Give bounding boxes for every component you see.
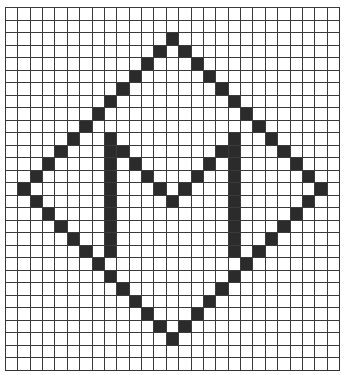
grid-cell xyxy=(178,170,190,183)
filled-cell xyxy=(178,45,190,58)
filled-cell xyxy=(166,332,178,345)
grid-cell xyxy=(166,182,178,195)
grid-cell xyxy=(215,307,227,320)
grid-cell xyxy=(5,257,17,270)
grid-cell xyxy=(252,232,264,245)
grid-cell xyxy=(302,57,314,70)
grid-cell xyxy=(42,195,54,208)
grid-cell xyxy=(265,282,277,295)
grid-cell xyxy=(104,32,116,45)
grid-cell xyxy=(166,270,178,283)
grid-cell xyxy=(314,320,326,333)
grid-cell xyxy=(191,232,203,245)
filled-cell xyxy=(129,70,141,83)
grid-cell xyxy=(203,257,215,270)
grid-cell xyxy=(240,170,252,183)
grid-cell xyxy=(327,257,339,270)
grid-cell xyxy=(252,32,264,45)
grid-cell xyxy=(5,145,17,158)
grid-cell xyxy=(215,257,227,270)
grid-cell xyxy=(116,182,128,195)
filled-cell xyxy=(92,107,104,120)
grid-cell xyxy=(327,307,339,320)
grid-cell xyxy=(314,307,326,320)
grid-cell xyxy=(92,32,104,45)
grid-cell xyxy=(240,95,252,108)
grid-cell xyxy=(215,107,227,120)
grid-cell xyxy=(314,145,326,158)
grid-cell xyxy=(30,257,42,270)
grid-cell xyxy=(240,120,252,133)
grid-cell xyxy=(79,70,91,83)
filled-cell xyxy=(141,307,153,320)
grid-cell xyxy=(54,332,66,345)
grid-cell xyxy=(30,295,42,308)
grid-cell xyxy=(302,245,314,258)
grid-cell xyxy=(17,107,29,120)
filled-cell xyxy=(215,282,227,295)
grid-cell xyxy=(277,182,289,195)
grid-cell xyxy=(277,195,289,208)
grid-cell xyxy=(153,157,165,170)
grid-cell xyxy=(215,357,227,370)
grid-cell xyxy=(191,145,203,158)
grid-cell xyxy=(30,120,42,133)
filled-cell xyxy=(166,195,178,208)
grid-cell xyxy=(67,282,79,295)
grid-cell xyxy=(178,345,190,358)
grid-cell xyxy=(67,270,79,283)
grid-cell xyxy=(54,282,66,295)
grid-cell xyxy=(92,357,104,370)
grid-cell xyxy=(79,107,91,120)
grid-cell xyxy=(79,170,91,183)
grid-cell xyxy=(129,332,141,345)
grid-cell xyxy=(92,282,104,295)
grid-cell xyxy=(178,32,190,45)
grid-cell xyxy=(5,207,17,220)
grid-cell xyxy=(54,195,66,208)
grid-cell xyxy=(5,332,17,345)
grid-cell xyxy=(290,57,302,70)
grid-cell xyxy=(104,295,116,308)
grid-cell xyxy=(5,45,17,58)
grid-cell xyxy=(79,332,91,345)
grid-cell xyxy=(265,220,277,233)
grid-cell xyxy=(5,157,17,170)
grid-cell xyxy=(178,107,190,120)
grid-cell xyxy=(166,157,178,170)
grid-cell xyxy=(314,157,326,170)
grid-cell xyxy=(42,320,54,333)
filled-cell xyxy=(104,207,116,220)
grid-cell xyxy=(228,20,240,33)
grid-cell xyxy=(54,245,66,258)
grid-cell xyxy=(178,207,190,220)
grid-cell xyxy=(54,207,66,220)
grid-cell xyxy=(5,245,17,258)
grid-cell xyxy=(42,70,54,83)
grid-cell xyxy=(92,295,104,308)
grid-cell xyxy=(92,82,104,95)
grid-cell xyxy=(265,170,277,183)
grid-cell xyxy=(240,357,252,370)
grid-cell xyxy=(5,120,17,133)
grid-cell xyxy=(191,32,203,45)
grid-cell xyxy=(240,195,252,208)
grid-cell xyxy=(67,120,79,133)
grid-cell xyxy=(104,120,116,133)
grid-cell xyxy=(290,107,302,120)
grid-cell xyxy=(104,20,116,33)
grid-cell xyxy=(129,195,141,208)
grid-cell xyxy=(277,82,289,95)
grid-cell xyxy=(5,270,17,283)
grid-cell xyxy=(290,245,302,258)
filled-cell xyxy=(228,145,240,158)
grid-cell xyxy=(252,20,264,33)
filled-cell xyxy=(129,295,141,308)
grid-cell xyxy=(5,132,17,145)
grid-cell xyxy=(290,45,302,58)
grid-cell xyxy=(290,32,302,45)
grid-cell xyxy=(129,170,141,183)
filled-cell xyxy=(104,170,116,183)
grid-cell xyxy=(129,57,141,70)
grid-cell xyxy=(277,45,289,58)
